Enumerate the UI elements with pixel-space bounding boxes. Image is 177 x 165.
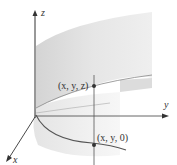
z-axis-label: z	[40, 7, 45, 18]
x-axis-label: x	[12, 154, 18, 165]
cylinder-diagram: z y x (x, y, z) (x, y, 0)	[0, 0, 177, 165]
x-axis: x	[6, 117, 35, 165]
y-axis-label: y	[163, 99, 169, 110]
point-xyz	[92, 84, 96, 88]
y-axis-arrow-icon	[162, 114, 169, 119]
cylinder-edge-strip	[120, 78, 152, 92]
z-axis-arrow-icon	[33, 10, 38, 16]
x-axis-arrow-icon	[6, 155, 12, 162]
cylinder-surface	[33, 12, 152, 156]
point-xy0	[92, 143, 96, 147]
diagram-canvas: z y x (x, y, z) (x, y, 0)	[0, 0, 177, 165]
point-xy0-label: (x, y, 0)	[97, 132, 128, 144]
point-xyz-label: (x, y, z)	[58, 80, 88, 92]
